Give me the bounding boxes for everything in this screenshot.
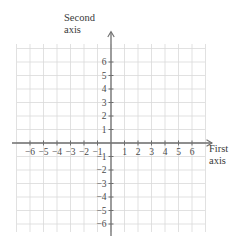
x-tick-label: 2	[136, 147, 141, 157]
y-tick-label: −1	[96, 152, 106, 162]
x-tick-label: −2	[79, 147, 89, 157]
x-tick-label: 4	[163, 147, 168, 157]
first-axis-label: Firstaxis	[209, 143, 228, 166]
x-tick-label: −5	[38, 147, 48, 157]
y-tick-label: −5	[96, 206, 106, 216]
first-axis-label-line2: axis	[209, 155, 226, 166]
second-axis-label: Secondaxis	[64, 12, 95, 35]
x-tick-label: 3	[149, 147, 154, 157]
y-tick-label: 3	[102, 98, 107, 108]
y-tick-label: −3	[96, 179, 106, 189]
y-tick-label: 6	[102, 57, 107, 67]
second-axis-label-line1: Second	[64, 12, 95, 23]
x-tick-label: 6	[190, 147, 195, 157]
y-tick-label: −4	[96, 192, 106, 202]
x-tick-label: 1	[122, 147, 127, 157]
y-tick-label: 5	[102, 71, 107, 81]
x-tick-label: −6	[25, 147, 35, 157]
y-tick-label: 1	[102, 125, 107, 135]
x-tick-label: 5	[176, 147, 181, 157]
x-tick-label: −3	[65, 147, 75, 157]
axis-lines	[12, 32, 212, 236]
x-tick-label: −4	[52, 147, 62, 157]
x-axis-tick-labels: −6−5−4−3−2−1123456	[25, 147, 195, 157]
y-tick-label: 4	[102, 84, 107, 94]
first-axis-label-line1: First	[209, 143, 228, 154]
coordinate-grid-figure: −6−5−4−3−2−1123456 654321−1−2−3−4−5−6 Se…	[0, 0, 245, 248]
y-tick-label: −2	[96, 165, 106, 175]
y-tick-label: 2	[102, 111, 107, 121]
y-tick-label: −6	[96, 219, 106, 229]
coordinate-plane: −6−5−4−3−2−1123456 654321−1−2−3−4−5−6	[0, 0, 245, 248]
second-axis-label-line2: axis	[64, 24, 81, 35]
